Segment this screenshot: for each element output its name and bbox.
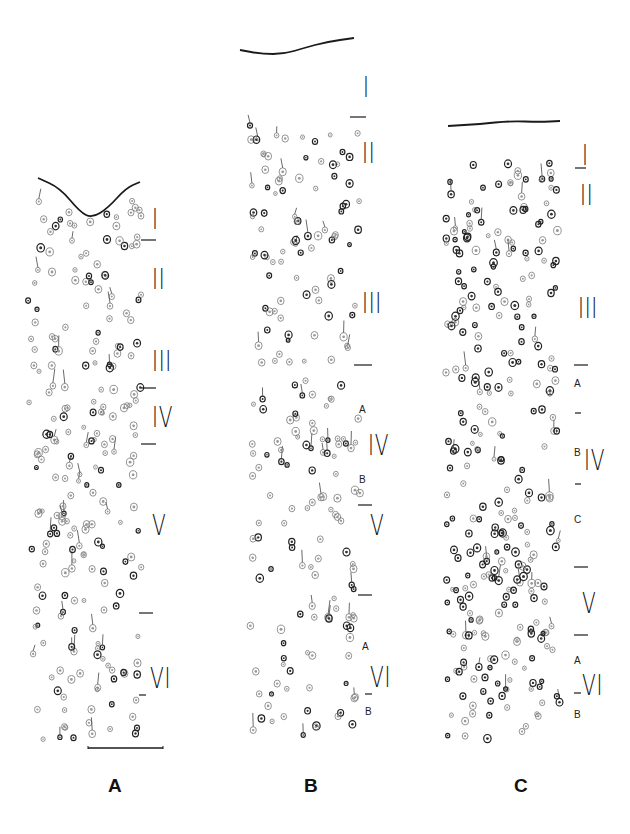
panel-label-b: B: [304, 776, 318, 795]
panel-label-a: A: [108, 776, 122, 795]
layer-label-ii: II: [152, 266, 165, 294]
cortical-layers-figure: [0, 0, 630, 834]
pial-surface-line: [38, 178, 140, 216]
layer-label-iv: IV: [584, 447, 605, 475]
layer-label-iii: III: [578, 295, 598, 323]
pial-surface-line: [448, 121, 560, 126]
neuron-cells: [26, 189, 144, 742]
layer-label-v: V: [152, 512, 167, 540]
layer-label-ii: II: [362, 140, 375, 168]
panel-A: [26, 178, 163, 749]
sublayer-label: A: [574, 379, 581, 389]
sublayer-label: B: [365, 707, 372, 717]
layer-label-vi: VI: [150, 665, 171, 693]
layer-label-i: I: [152, 206, 159, 234]
layer-label-i: I: [363, 74, 370, 102]
sublayer-label: B: [574, 448, 581, 458]
layer-label-i: I: [582, 142, 589, 170]
pial-surface-line: [240, 38, 354, 54]
layer-label-iii: III: [362, 290, 382, 318]
sublayer-label: A: [359, 405, 366, 415]
panel-C: [443, 121, 588, 743]
layer-label-v: V: [582, 590, 597, 618]
layer-label-vi: VI: [582, 672, 603, 700]
sublayer-label: A: [362, 642, 369, 652]
layer-label-iv: IV: [152, 404, 173, 432]
layer-label-iii: III: [152, 348, 172, 376]
sublayer-label: A: [574, 656, 581, 666]
layer-label-v: V: [370, 512, 385, 540]
neuron-cells: [443, 160, 563, 743]
sublayer-label: B: [574, 710, 581, 720]
sublayer-label: B: [359, 475, 366, 485]
layer-label-ii: II: [580, 182, 593, 210]
layer-label-vi: VI: [370, 664, 391, 692]
sublayer-label: C: [574, 515, 581, 525]
panel-B: [240, 38, 372, 737]
neuron-cells: [247, 115, 363, 737]
layer-label-iv: IV: [368, 432, 389, 460]
panel-label-c: C: [514, 776, 528, 795]
